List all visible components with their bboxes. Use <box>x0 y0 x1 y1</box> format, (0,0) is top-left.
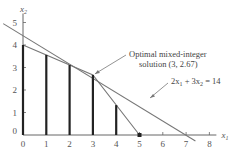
x-tick-label: 7 <box>184 139 189 149</box>
y-tick-label: 5 <box>13 18 18 28</box>
annotation-constraint-label: 2x1 + 3x2 = 14 <box>171 76 221 87</box>
x-tick-label: 3 <box>91 139 96 149</box>
y-tick-label: 4 <box>13 40 18 50</box>
x-tick-label: 8 <box>207 139 212 149</box>
arrow-head-icon <box>95 70 100 74</box>
x-tick-label: 0 <box>21 139 26 149</box>
y-tick-label: 1 <box>13 108 18 118</box>
y-tick-label: 2 <box>13 85 18 95</box>
x-tick-label: 1 <box>44 139 49 149</box>
y-axis-label: x2 <box>19 4 27 15</box>
annotation-optimal-line2: solution (3, 2.67) <box>139 59 198 69</box>
annotation-optimal-line1: Optimal mixed-integer <box>129 49 207 59</box>
x-tick-label: 2 <box>67 139 72 149</box>
x-tick-label: 4 <box>114 139 119 149</box>
chart: 012345678012345x1x2Optimal mixed-integer… <box>0 0 244 155</box>
mixed-integer-boundary <box>23 45 140 135</box>
annotation-arrow-optimal <box>95 55 126 74</box>
x-tick-label: 6 <box>161 139 166 149</box>
y-tick-label: 0 <box>13 126 18 136</box>
x-tick-label: 5 <box>137 139 142 149</box>
x-axis-label: x1 <box>220 130 228 141</box>
y-tick-label: 3 <box>13 63 18 73</box>
integer-point <box>138 133 142 137</box>
